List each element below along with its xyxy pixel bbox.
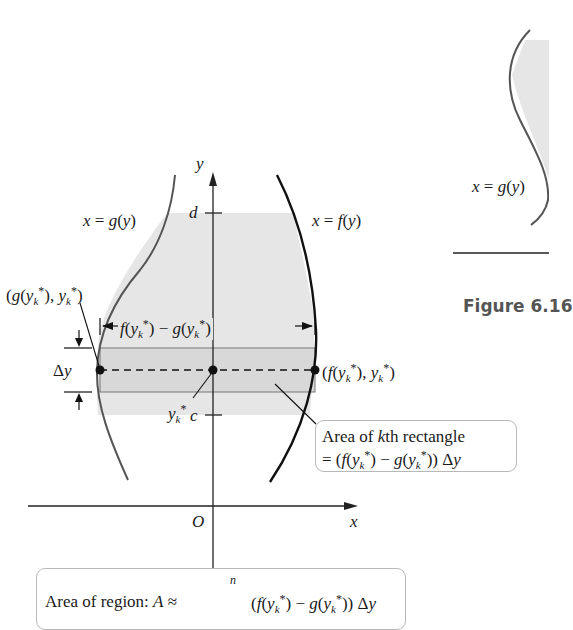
sum-formula-body: (f(yk*) − g(yk*)) Δy — [251, 593, 376, 615]
sum-box: Area of region: A ≈ n (f(yk*) − g(yk*)) … — [36, 568, 406, 630]
sum-formula-prefix: Area of region: A ≈ — [45, 593, 177, 610]
rect-area-line2: = (f(yk*) − g(yk*)) Δy — [322, 449, 461, 471]
left-point-label: (g(yk*), yk*) — [6, 285, 83, 307]
x-axis-arrow-icon — [344, 502, 358, 510]
y-axis-label: y — [196, 155, 204, 172]
left-point — [96, 366, 105, 375]
curve-f-label: x = f(y) — [312, 212, 361, 229]
y-axis-arrow-icon — [209, 172, 217, 186]
x-axis-label: x — [350, 513, 358, 530]
sample-point — [209, 366, 218, 375]
rect-area-box: Area of kth rectangle = (f(yk*) − g(yk*)… — [315, 420, 517, 472]
right-panel-shade — [512, 40, 549, 180]
dy-arrow-down-icon — [75, 338, 83, 347]
figure-caption: Figure 6.16 — [463, 296, 573, 316]
tick-d-label: d — [189, 204, 198, 221]
right-point — [311, 366, 320, 375]
curve-g-label: x = g(y) — [83, 212, 136, 229]
delta-y-label: Δy — [53, 362, 71, 379]
width-label: f(yk*) − g(yk*) — [118, 318, 213, 340]
sample-point-label: yk* — [168, 403, 186, 425]
rect-area-line1: Area of kth rectangle — [322, 428, 465, 445]
sum-upper-limit: n — [230, 574, 236, 586]
dy-arrow-up-icon — [75, 393, 83, 402]
origin-label: O — [192, 513, 204, 530]
right-point-label: (f(yk*), yk*) — [322, 362, 395, 384]
right-panel-g-label: x = g(y) — [472, 178, 525, 195]
leader-left-point — [80, 303, 99, 366]
tick-c-label: c — [190, 407, 198, 424]
